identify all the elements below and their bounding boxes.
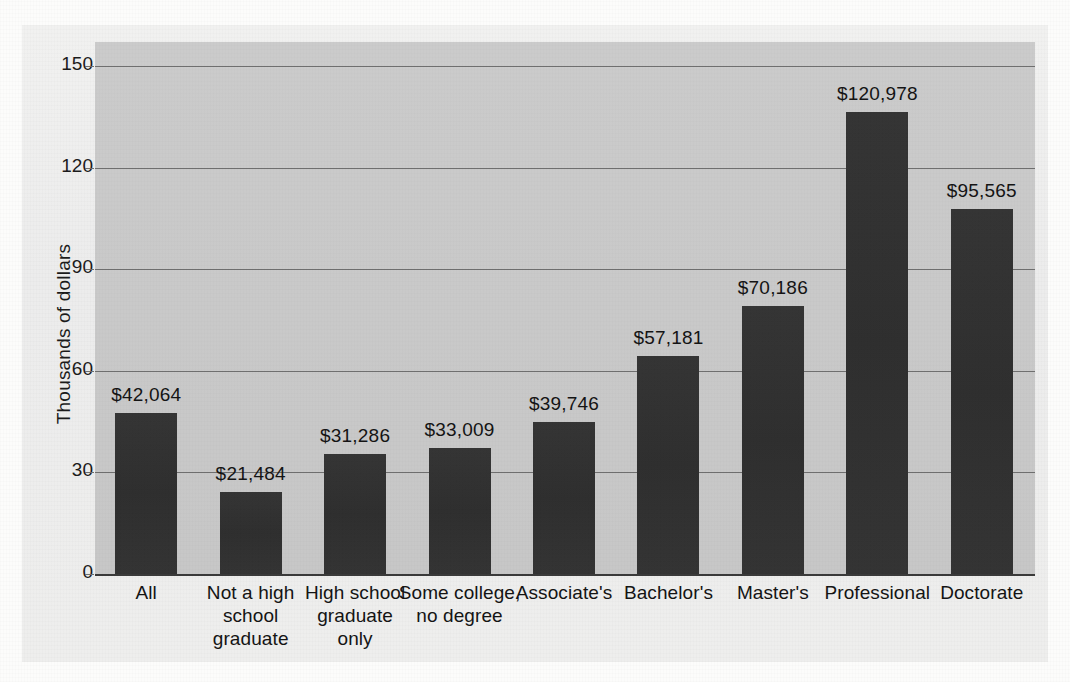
bar-value-label: $57,181 — [593, 327, 743, 349]
y-axis-tick-mark — [85, 168, 94, 169]
x-tick-label-line: graduate — [213, 628, 289, 649]
y-axis-tick-label: 30 — [10, 459, 93, 481]
x-tick-label-line: only — [337, 628, 372, 649]
y-axis-tick-label: 150 — [10, 53, 93, 75]
x-tick-label-line: school — [223, 605, 279, 626]
bar — [637, 356, 699, 574]
y-axis-tick-label: 90 — [10, 256, 93, 278]
y-axis-tick-label: 60 — [10, 358, 93, 380]
bar — [742, 306, 804, 574]
bar — [220, 492, 282, 574]
bar — [951, 209, 1013, 574]
x-tick-label-line: no degree — [416, 605, 502, 626]
x-tick-label-line: Doctorate — [940, 582, 1023, 603]
y-axis-title: Thousands of dollars — [53, 184, 75, 484]
y-axis-tick-mark — [85, 371, 94, 372]
x-tick-label-line: All — [136, 582, 157, 603]
bar-value-label: $120,978 — [802, 83, 952, 105]
x-axis-tick-label: Doctorate — [906, 581, 1058, 604]
y-axis-tick-mark — [85, 472, 94, 473]
plot-area — [95, 42, 1035, 574]
bar — [429, 448, 491, 574]
bar — [846, 112, 908, 574]
gridline — [95, 66, 1035, 67]
bar-value-label: $42,064 — [71, 384, 221, 406]
scanned-page: Thousands of dollars 0306090120150 $42,0… — [0, 0, 1070, 682]
x-tick-label-line: Master's — [737, 582, 809, 603]
bar-value-label: $95,565 — [907, 180, 1057, 202]
bar — [324, 454, 386, 574]
bar-value-label: $70,186 — [698, 277, 848, 299]
y-axis-tick-label: 120 — [10, 155, 93, 177]
bar-value-label: $21,484 — [176, 463, 326, 485]
y-axis-tick-label: 0 — [10, 561, 93, 583]
bar — [533, 422, 595, 574]
y-axis-tick-mark — [85, 574, 94, 575]
x-axis-line — [95, 574, 1035, 576]
bar-value-label: $33,009 — [385, 419, 535, 441]
y-axis-tick-mark — [85, 269, 94, 270]
y-axis-tick-mark — [85, 66, 94, 67]
x-tick-label-line: graduate — [317, 605, 393, 626]
bar — [115, 413, 177, 574]
bar-value-label: $39,746 — [489, 393, 639, 415]
